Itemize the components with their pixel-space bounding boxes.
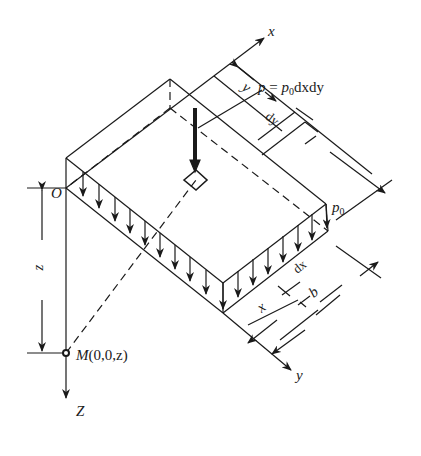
origin-label: O [51,186,62,201]
formula-label: p = p0dxdy [258,80,324,97]
z-axis-label: Z [76,404,84,419]
load-intensity-label: p0 [332,200,345,217]
y-axis [223,313,291,370]
diagram-graphics [0,0,421,456]
element-dxdy [184,170,207,190]
x-axis [66,38,264,188]
x-axis-label: x [268,24,275,39]
diagram-canvas: x y Z O z M(0,0,z) y dy p = p0dxdy p0 dx… [0,0,421,456]
depth-label: z [31,265,46,271]
y-axis-label: y [296,368,303,383]
slab-bottom-edge [66,188,223,313]
point-m-label: M(0,0,z) [76,348,128,363]
point-m-marker [63,350,69,356]
